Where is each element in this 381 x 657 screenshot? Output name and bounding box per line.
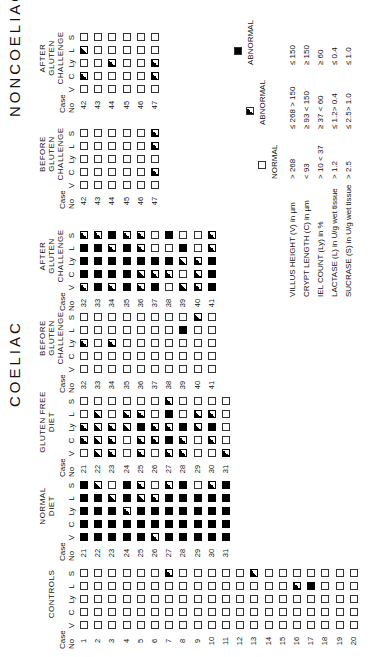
cell-normal (307, 608, 315, 616)
cell-normal (108, 46, 116, 54)
cell-normal (165, 582, 173, 590)
cell-normal (80, 168, 88, 176)
cell-normal (80, 352, 88, 360)
cell-normal (108, 365, 116, 373)
case-number: 20 (349, 633, 358, 649)
legend-param-label: VILLUS HEIGHT (V) in µm (288, 202, 297, 297)
legend-symbol-abnormal-moderate (246, 107, 254, 115)
column-header-c: C (67, 71, 76, 82)
cell-normal (236, 595, 244, 603)
case-number: 22 (93, 461, 102, 477)
cell-abnormal-moderate (165, 569, 173, 577)
cell-normal (336, 608, 344, 616)
cell-normal (194, 352, 202, 360)
cell-normal (279, 621, 287, 629)
cell-abnormal-moderate (123, 423, 131, 431)
case-no-header: Case No (58, 542, 76, 561)
column-header-c: C (67, 269, 76, 280)
case-number: 46 (136, 97, 145, 113)
case-number: 40 (193, 295, 202, 311)
cell-normal (222, 595, 230, 603)
cell-normal (123, 33, 131, 41)
cell-abnormal-moderate (179, 436, 187, 444)
cell-abnormal-moderate (108, 283, 116, 291)
cell-normal (321, 569, 329, 577)
cell-normal (151, 181, 159, 189)
cell-abnormal-moderate (80, 72, 88, 80)
cell-normal (165, 339, 173, 347)
cell-normal (108, 608, 116, 616)
cell-normal (194, 569, 202, 577)
case-number: 1 (79, 633, 88, 649)
cell-abnormal-moderate (194, 313, 202, 321)
cell-abnormal-severe (165, 507, 173, 515)
cell-normal (108, 155, 116, 163)
case-number: 31 (221, 545, 230, 561)
cell-normal (94, 595, 102, 603)
cell-abnormal-severe (165, 257, 173, 265)
cell-abnormal-moderate (222, 449, 230, 457)
case-number: 9 (193, 633, 202, 649)
cell-normal (137, 33, 145, 41)
legend-value-normal: > 2.5 (344, 161, 353, 179)
cell-normal (151, 621, 159, 629)
group-title: CONTROLS (47, 557, 56, 631)
cell-normal (94, 46, 102, 54)
cell-normal (350, 569, 358, 577)
legend-value-full: ≤ 1.0 (344, 47, 353, 65)
case-number: 23 (107, 545, 116, 561)
case-number: 29 (193, 545, 202, 561)
cell-normal (151, 33, 159, 41)
cell-abnormal-severe (108, 533, 116, 541)
case-number: 5 (136, 633, 145, 649)
case-number: 28 (178, 461, 187, 477)
cell-abnormal-moderate (208, 436, 216, 444)
cell-normal (279, 595, 287, 603)
cell-normal (123, 326, 131, 334)
cell-normal (94, 582, 102, 590)
case-number: 24 (122, 461, 131, 477)
cell-abnormal-moderate (208, 244, 216, 252)
cell-normal (151, 46, 159, 54)
cell-normal (179, 352, 187, 360)
cell-normal (321, 621, 329, 629)
cell-abnormal-moderate (151, 59, 159, 67)
column-header-ly: Ly (67, 422, 76, 433)
cell-normal (80, 410, 88, 418)
column-header-c: C (67, 519, 76, 530)
cell-normal (137, 155, 145, 163)
cell-abnormal-severe (94, 244, 102, 252)
case-number: 45 (122, 193, 131, 209)
cell-abnormal-moderate (208, 481, 216, 489)
case-number: 40 (193, 377, 202, 393)
case-number: 39 (178, 295, 187, 311)
cell-abnormal-moderate (108, 59, 116, 67)
cell-abnormal-moderate (165, 423, 173, 431)
cell-abnormal-moderate (179, 449, 187, 457)
cell-normal (307, 569, 315, 577)
cell-normal (194, 595, 202, 603)
cell-abnormal-moderate (94, 423, 102, 431)
cell-normal (236, 621, 244, 629)
case-number: 47 (150, 97, 159, 113)
cell-normal (151, 595, 159, 603)
cell-abnormal-moderate (137, 481, 145, 489)
coeliac-title: COELIAC (6, 320, 23, 407)
case-number: 39 (178, 377, 187, 393)
legend-value-half: ≤ 268 > 150 (288, 87, 297, 129)
cell-abnormal-moderate (94, 231, 102, 239)
legend-header: ABNORMAL (246, 20, 255, 65)
cell-normal (108, 352, 116, 360)
case-no-header: Case No (58, 458, 76, 477)
cell-abnormal-moderate (151, 270, 159, 278)
cell-normal (123, 365, 131, 373)
case-number: 26 (150, 545, 159, 561)
cell-abnormal-moderate (108, 339, 116, 347)
cell-abnormal-severe (208, 494, 216, 502)
case-number: 10 (207, 633, 216, 649)
cell-abnormal-severe (208, 283, 216, 291)
cell-abnormal-severe (165, 533, 173, 541)
cell-abnormal-severe (151, 257, 159, 265)
cell-normal (179, 270, 187, 278)
cell-normal (179, 569, 187, 577)
